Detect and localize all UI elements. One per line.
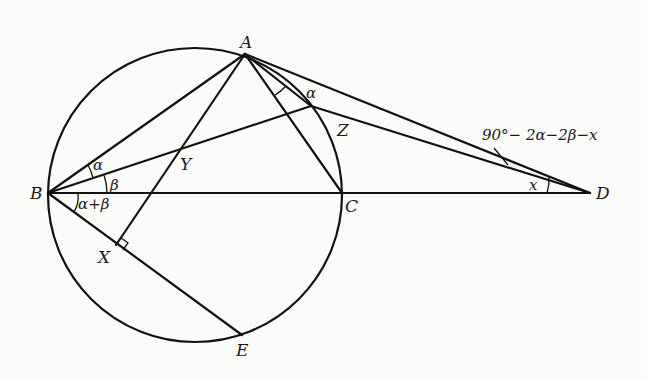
label-e: E [235,340,249,360]
label-c: C [345,196,358,216]
segment-ab [48,54,245,193]
angle-label-beta-b: β [109,176,119,194]
geometry-figure: A B C D E X Y Z α β α+β α x 90°− 2α−2β−x [0,0,647,380]
segment-az [245,54,311,106]
angle-arc-alpha-a [275,86,286,95]
label-x: X [96,247,111,267]
segment-bz [48,106,311,193]
label-d: D [595,183,610,203]
angle-label-alpha-b: α [93,156,103,174]
angle-callout-text: 90°− 2α−2β−x [482,126,598,144]
label-b: B [29,183,43,203]
callout-pointer [494,148,508,165]
label-z: Z [336,120,350,140]
segment-zd [311,106,590,193]
angle-label-alpha-beta: α+β [78,195,110,213]
segment-be [48,193,242,335]
angle-arc-beta-b [104,175,107,193]
label-y: Y [180,154,193,174]
label-a: A [238,32,252,52]
angle-label-alpha-a: α [306,84,316,102]
angle-label-x-d: x [529,176,538,194]
segment-ad [245,54,590,193]
